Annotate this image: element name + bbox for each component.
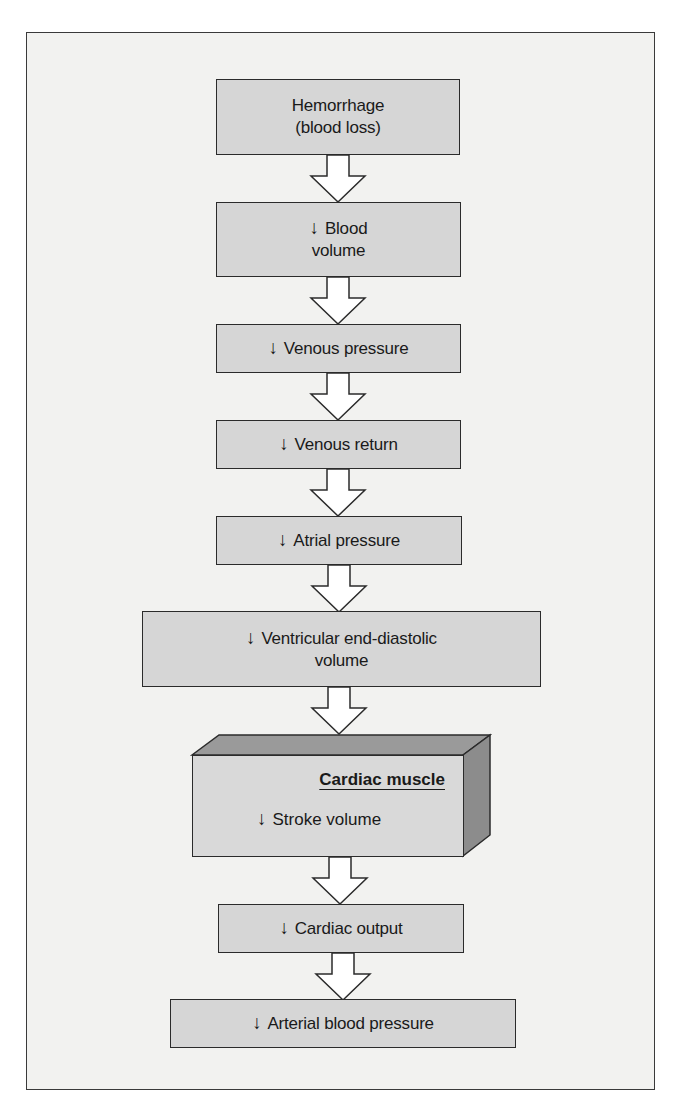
- flow-arrow-icon: [309, 565, 369, 613]
- node-hemorrhage-line1: Hemorrhage: [292, 95, 385, 117]
- decrease-arrow-icon: ↓: [310, 217, 319, 238]
- node-atrial-pressure-label: Atrial pressure: [293, 531, 400, 550]
- decrease-arrow-icon: ↓: [279, 433, 288, 454]
- node-ventricular-edv: ↓Ventricular end-diastolic volume: [142, 611, 541, 687]
- node-ventricular-edv-line2: volume: [246, 650, 437, 672]
- flow-arrow-icon: [308, 469, 368, 517]
- flow-arrow-icon: [309, 687, 369, 735]
- flow-arrow-icon: [310, 857, 370, 905]
- node-blood-volume: ↓Blood volume: [216, 202, 461, 277]
- cube-top-face: [192, 735, 490, 755]
- decrease-arrow-icon: ↓: [279, 917, 288, 938]
- node-blood-volume-line2: volume: [310, 240, 368, 262]
- cube-side-face: [463, 735, 491, 857]
- node-ventricular-edv-line1: Ventricular end-diastolic: [261, 629, 436, 648]
- node-venous-pressure-label: Venous pressure: [284, 339, 409, 358]
- node-venous-pressure: ↓Venous pressure: [216, 324, 461, 373]
- flow-arrow-icon: [308, 277, 368, 325]
- node-stroke-volume-label: Stroke volume: [273, 810, 382, 829]
- flow-arrow-icon: [313, 953, 373, 1001]
- flow-arrow-icon: [308, 155, 368, 203]
- node-venous-return-label: Venous return: [295, 435, 398, 454]
- node-cardiac-output-label: Cardiac output: [295, 919, 403, 938]
- node-atrial-pressure: ↓Atrial pressure: [216, 516, 462, 565]
- node-arterial-bp: ↓Arterial blood pressure: [170, 999, 516, 1048]
- decrease-arrow-icon: ↓: [252, 1012, 261, 1033]
- node-blood-volume-line1: Blood: [325, 219, 367, 238]
- decrease-arrow-icon: ↓: [246, 627, 255, 648]
- node-hemorrhage: Hemorrhage (blood loss): [216, 79, 460, 155]
- node-arterial-bp-label: Arterial blood pressure: [267, 1014, 433, 1033]
- node-cardiac-output: ↓Cardiac output: [218, 904, 464, 953]
- decrease-arrow-icon: ↓: [269, 337, 278, 358]
- node-venous-return: ↓Venous return: [216, 420, 461, 469]
- decrease-arrow-icon: ↓: [257, 808, 267, 829]
- cardiac-muscle-title: Cardiac muscle: [319, 770, 445, 790]
- decrease-arrow-icon: ↓: [278, 529, 287, 550]
- node-hemorrhage-line2: (blood loss): [292, 117, 385, 139]
- cube-front-face: Cardiac muscle ↓Stroke volume: [192, 755, 464, 857]
- flow-arrow-icon: [308, 373, 368, 421]
